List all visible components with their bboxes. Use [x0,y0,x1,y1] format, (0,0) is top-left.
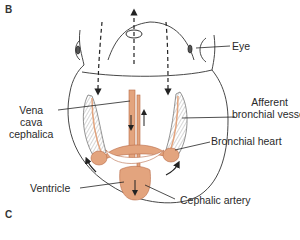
bronchial-heart-left [91,151,107,165]
label-bronchial-heart: Bronchial heart [211,135,282,147]
label-afferent-bronchial-vessel: Afferent bronchial vessel [232,96,300,120]
label-eye: Eye [232,40,250,52]
label-ventricle: Ventricle [30,182,70,194]
label-vena-cava-cephalica: Vena cava cephalica [9,104,53,140]
water-inflow-arrow-right [166,22,168,92]
water-inflow-arrow-left [98,22,102,92]
label-cephalic-artery: Cephalic artery [180,194,251,206]
bronchial-heart-right [163,148,179,162]
